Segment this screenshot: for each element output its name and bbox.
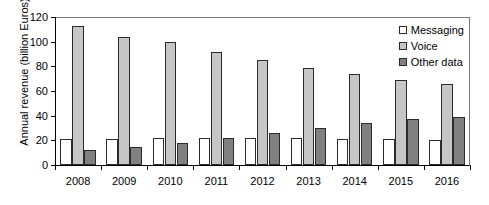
- x-axis-line: [55, 165, 470, 166]
- x-tick-mark: [55, 165, 56, 170]
- x-tick-mark: [193, 165, 194, 170]
- legend-label: Other data: [411, 56, 463, 68]
- plot-border-right: [469, 17, 470, 166]
- y-tick-label: 0: [42, 159, 48, 171]
- bar: [211, 52, 223, 165]
- x-tick-mark: [147, 165, 148, 170]
- x-tick-label: 2010: [158, 175, 182, 187]
- bar-group: [60, 17, 96, 165]
- bar: [199, 138, 211, 165]
- bar: [84, 150, 96, 165]
- bar-group: [199, 17, 235, 165]
- legend-swatch-icon: [399, 42, 407, 50]
- bar: [407, 119, 419, 165]
- bar: [118, 37, 130, 165]
- bar: [453, 117, 465, 165]
- y-tick-mark: [51, 116, 56, 117]
- y-tick-label: 100: [30, 36, 48, 48]
- bar: [269, 133, 281, 165]
- bar: [177, 143, 189, 165]
- legend-item: Other data: [399, 56, 464, 68]
- bar: [429, 140, 441, 165]
- bar: [383, 139, 395, 165]
- x-tick-label: 2012: [250, 175, 274, 187]
- x-tick-label: 2008: [66, 175, 90, 187]
- legend-item: Messaging: [399, 24, 464, 36]
- bar: [245, 138, 257, 165]
- bar-chart: Annual revenue (billion Euros) 020406080…: [0, 0, 489, 205]
- bar: [130, 147, 142, 166]
- bar: [257, 60, 269, 165]
- y-tick-label: 80: [36, 60, 48, 72]
- y-tick-label: 120: [30, 11, 48, 23]
- legend-item: Voice: [399, 40, 464, 52]
- x-tick-mark: [239, 165, 240, 170]
- bar-group: [106, 17, 142, 165]
- bar-group: [291, 17, 327, 165]
- bar-group: [153, 17, 189, 165]
- legend-swatch-icon: [399, 58, 407, 66]
- legend-swatch-icon: [399, 26, 407, 34]
- x-tick-label: 2009: [112, 175, 136, 187]
- bar: [441, 84, 453, 165]
- plot-area: 020406080100120 200820092010201120122013…: [55, 17, 470, 166]
- y-tick-mark: [51, 140, 56, 141]
- bar-group: [245, 17, 281, 165]
- y-axis-title: Annual revenue (billion Euros): [18, 0, 30, 152]
- bar: [165, 42, 177, 165]
- bar: [60, 139, 72, 165]
- bar: [337, 139, 349, 165]
- x-tick-mark: [470, 165, 471, 170]
- y-tick-mark: [51, 91, 56, 92]
- x-tick-mark: [101, 165, 102, 170]
- bar: [361, 123, 373, 165]
- legend-label: Messaging: [411, 24, 464, 36]
- x-tick-label: 2016: [435, 175, 459, 187]
- bar: [72, 26, 84, 165]
- x-tick-label: 2011: [205, 175, 229, 187]
- chart-legend: MessagingVoiceOther data: [399, 24, 464, 68]
- y-tick-label: 60: [36, 85, 48, 97]
- y-tick-mark: [51, 17, 56, 18]
- x-tick-mark: [378, 165, 379, 170]
- x-tick-label: 2015: [389, 175, 413, 187]
- bar: [153, 138, 165, 165]
- bar: [223, 138, 235, 165]
- x-tick-mark: [332, 165, 333, 170]
- bar-group: [337, 17, 373, 165]
- bar: [291, 138, 303, 165]
- y-tick-label: 40: [36, 110, 48, 122]
- y-tick-label: 20: [36, 134, 48, 146]
- bar: [106, 139, 118, 165]
- x-tick-mark: [424, 165, 425, 170]
- x-tick-mark: [286, 165, 287, 170]
- x-tick-label: 2013: [296, 175, 320, 187]
- legend-label: Voice: [411, 40, 438, 52]
- y-tick-mark: [51, 66, 56, 67]
- bar: [303, 68, 315, 165]
- bar: [349, 74, 361, 165]
- y-tick-mark: [51, 42, 56, 43]
- x-tick-label: 2014: [342, 175, 366, 187]
- bar: [315, 128, 327, 165]
- bar: [395, 80, 407, 165]
